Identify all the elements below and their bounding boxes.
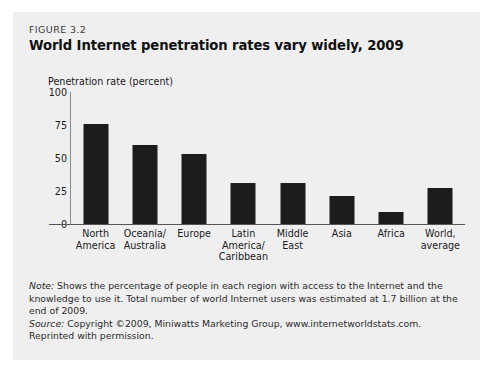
bar[interactable]: [379, 212, 404, 224]
source-body: Copyright ©2009, Miniwatts Marketing Gro…: [29, 318, 421, 342]
bar-slot: [317, 92, 366, 224]
x-axis-label-line: average: [416, 240, 465, 252]
x-axis-label: Europe: [170, 228, 219, 240]
chart-plot-area: Penetration rate (percent) 0255075100 No…: [29, 76, 465, 268]
x-axis-labels: NorthAmericaOceania/AustraliaEuropeLatin…: [71, 228, 465, 268]
x-axis-label-line: East: [268, 240, 317, 252]
x-axis-label: LatinAmerica/Caribbean: [219, 228, 268, 263]
figure-number: FIGURE 3.2: [29, 24, 86, 35]
bar[interactable]: [83, 124, 108, 224]
bar[interactable]: [182, 154, 207, 224]
figure-notes: Note: Shows the percentage of people in …: [29, 280, 463, 343]
y-axis-ticks: 0255075100: [29, 92, 67, 224]
x-axis-label-line: Latin: [219, 228, 268, 240]
note-body: Shows the percentage of people in each r…: [29, 280, 458, 316]
bar[interactable]: [329, 196, 354, 224]
x-axis-label: MiddleEast: [268, 228, 317, 251]
y-tick-label: 25: [31, 186, 67, 197]
bar-slot: [219, 92, 268, 224]
x-axis-label: World,average: [416, 228, 465, 251]
y-tick-label: 50: [31, 153, 67, 164]
x-axis-label: NorthAmerica: [71, 228, 120, 251]
bar-series: [71, 92, 465, 224]
x-axis-label-line: Middle: [268, 228, 317, 240]
y-tick-label: 75: [31, 120, 67, 131]
note-label: Note:: [29, 280, 54, 291]
x-axis-label-line: Australia: [120, 240, 169, 252]
y-tick-label: 100: [31, 87, 67, 98]
x-axis-label-line: Caribbean: [219, 251, 268, 263]
x-axis-label: Asia: [317, 228, 366, 240]
bar-slot: [268, 92, 317, 224]
x-axis-label: Africa: [367, 228, 416, 240]
x-axis-label-line: Asia: [317, 228, 366, 240]
bar[interactable]: [132, 145, 157, 224]
source-text: Source: Copyright ©2009, Miniwatts Marke…: [29, 318, 463, 343]
bar-slot: [120, 92, 169, 224]
note-text: Note: Shows the percentage of people in …: [29, 280, 463, 318]
bar-slot: [170, 92, 219, 224]
x-axis-label-line: World,: [416, 228, 465, 240]
x-axis-label-line: Europe: [170, 228, 219, 240]
x-axis-label-line: Oceania/: [120, 228, 169, 240]
x-axis-line: [49, 224, 465, 225]
bar-slot: [416, 92, 465, 224]
x-axis-label-line: America: [71, 240, 120, 252]
bar-slot: [71, 92, 120, 224]
bar-slot: [367, 92, 416, 224]
source-label: Source:: [29, 318, 64, 329]
x-axis-label: Oceania/Australia: [120, 228, 169, 251]
y-axis-title: Penetration rate (percent): [48, 76, 173, 87]
chart-inner: 0255075100: [29, 92, 465, 228]
x-axis-label-line: Africa: [367, 228, 416, 240]
x-axis-label-line: North: [71, 228, 120, 240]
bar[interactable]: [280, 183, 305, 224]
bar[interactable]: [231, 183, 256, 224]
bar[interactable]: [428, 188, 453, 224]
x-axis-label-line: America/: [219, 240, 268, 252]
figure-panel: FIGURE 3.2 World Internet penetration ra…: [13, 12, 480, 360]
figure-title: World Internet penetration rates vary wi…: [29, 38, 404, 53]
